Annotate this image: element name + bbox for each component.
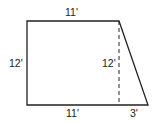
bottom-left-length-label: 11' — [66, 107, 79, 119]
trapezoid-outline — [27, 21, 148, 105]
left-height-label: 12' — [9, 57, 23, 69]
top-length-label: 11' — [65, 6, 78, 18]
trapezoid-diagram: 11' 12' 12' 11' 3' — [0, 0, 158, 124]
dashed-height-label: 12' — [102, 57, 116, 69]
bottom-right-length-label: 3' — [130, 107, 138, 119]
